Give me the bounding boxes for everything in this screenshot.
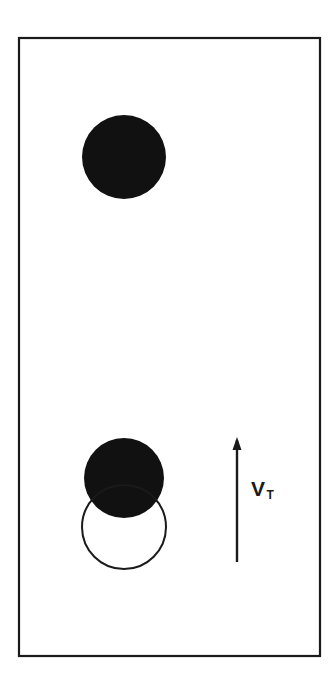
upper-filled-bubble (82, 115, 166, 199)
lower-filled-bubble (84, 438, 164, 518)
velocity-label: VT (251, 478, 273, 499)
figure-background (0, 0, 335, 684)
figure-root: VT (0, 0, 335, 684)
velocity-label-subscript: T (267, 488, 275, 502)
velocity-label-symbol: V (251, 477, 266, 500)
figure-canvas (0, 0, 335, 684)
